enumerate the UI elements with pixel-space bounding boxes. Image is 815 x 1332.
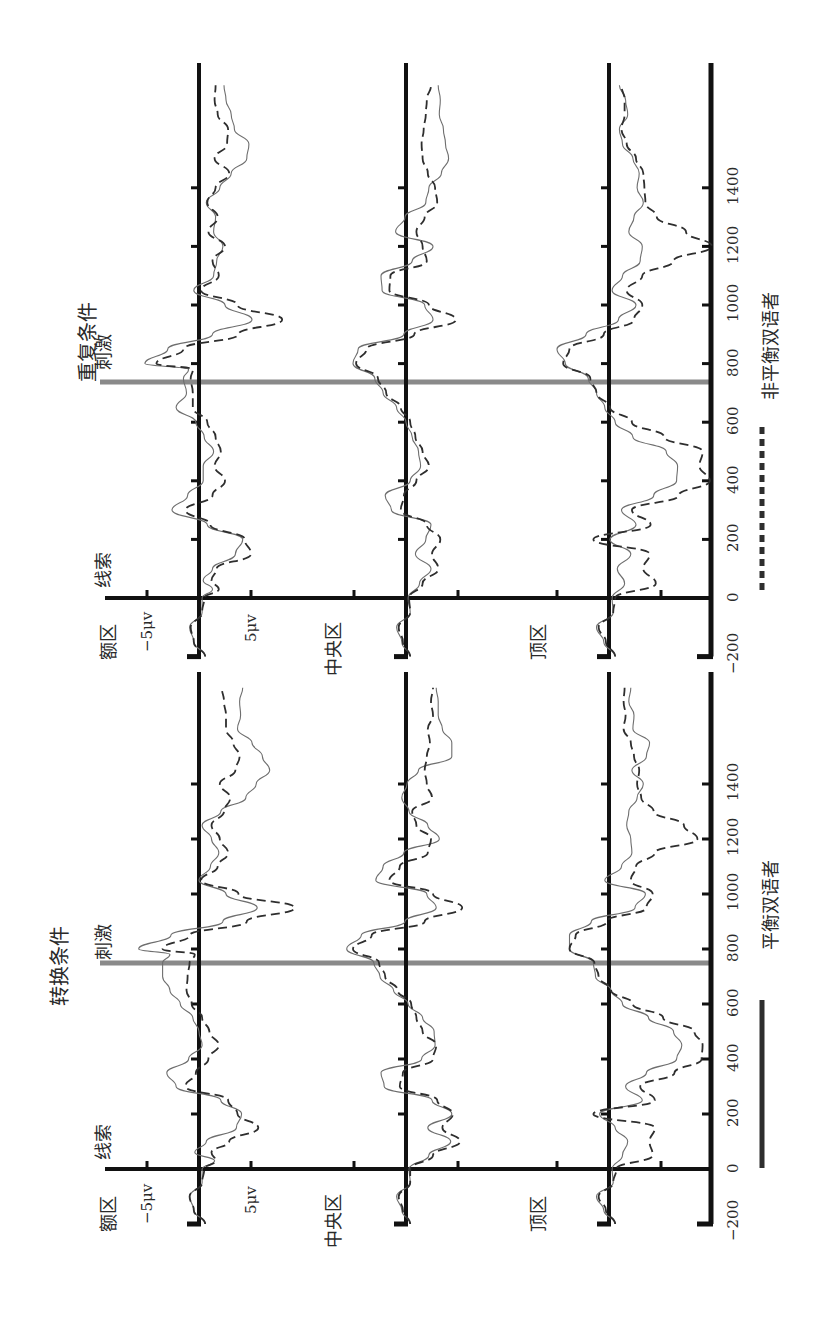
cue-label-switch: 线索: [95, 1124, 113, 1160]
stimulus-label-repeat: 刺激: [95, 334, 113, 370]
amp-neg-label-repeat: −5μv: [140, 612, 155, 652]
region-label-central-switch: 中央区: [325, 1194, 343, 1248]
waveform-unbalanced: [563, 85, 712, 656]
time-tick-label: 400: [726, 465, 741, 494]
region-label-frontal-switch: 额区: [100, 1196, 118, 1232]
time-tick-label: 400: [726, 1043, 741, 1072]
legend-label-unbalanced: 非平衡双语者: [762, 292, 780, 400]
region-label-frontal-repeat: 额区: [100, 624, 118, 660]
erp-figure: 重复条件 刺激 线索 额区 −5μv 5μv 中央区 顶区 转换条件 刺激 线索…: [0, 0, 815, 1332]
panel-title-switch: 转换条件: [50, 926, 70, 1006]
amp-neg-label-switch: −5μv: [140, 1184, 155, 1224]
erp-chart-svg: [0, 0, 815, 1332]
waveform-balanced: [139, 688, 270, 1224]
region-label-parietal-repeat: 顶区: [530, 624, 548, 660]
region-label-central-repeat: 中央区: [325, 622, 343, 676]
time-tick-label: −200: [726, 633, 741, 674]
time-tick-label: 1000: [726, 873, 741, 911]
time-tick-label: 600: [726, 988, 741, 1017]
region-label-parietal-switch: 顶区: [530, 1196, 548, 1232]
time-tick-label: 1200: [726, 225, 741, 263]
time-tick-label: 1400: [726, 763, 741, 801]
time-tick-label: 1400: [726, 167, 741, 205]
amp-pos-label-repeat: 5μv: [244, 614, 259, 642]
cue-label-repeat: 线索: [95, 552, 113, 588]
time-tick-label: 800: [726, 933, 741, 962]
time-tick-label: 1000: [726, 284, 741, 322]
legend-label-balanced: 平衡双语者: [762, 860, 780, 950]
time-tick-label: 0: [726, 593, 741, 603]
time-tick-label: 600: [726, 406, 741, 435]
time-tick-label: 0: [726, 1164, 741, 1174]
waveform-unbalanced: [570, 688, 703, 1224]
waveform-unbalanced: [163, 688, 295, 1224]
waveform-balanced: [347, 688, 452, 1224]
waveform-unbalanced: [156, 85, 282, 656]
time-tick-label: 1200: [726, 818, 741, 856]
waveform-balanced: [570, 688, 682, 1224]
stimulus-label-switch: 刺激: [95, 924, 113, 960]
time-tick-label: −200: [726, 1200, 741, 1241]
time-tick-label: 800: [726, 348, 741, 377]
time-tick-label: 200: [726, 524, 741, 553]
time-tick-label: 200: [726, 1098, 741, 1127]
amp-pos-label-switch: 5μv: [244, 1186, 259, 1214]
